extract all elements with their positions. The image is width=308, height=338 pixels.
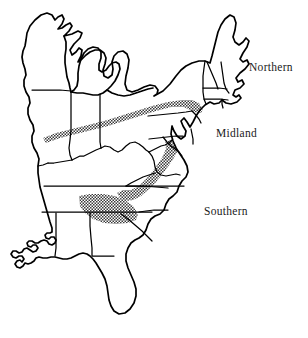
region-label-northern: Northern	[249, 62, 293, 74]
map-background	[0, 0, 308, 338]
map-outline-graphic	[0, 0, 308, 338]
dialect-region-map: Northern Midland Southern	[0, 0, 308, 338]
region-label-southern: Southern	[204, 206, 248, 218]
region-label-midland: Midland	[216, 128, 257, 140]
